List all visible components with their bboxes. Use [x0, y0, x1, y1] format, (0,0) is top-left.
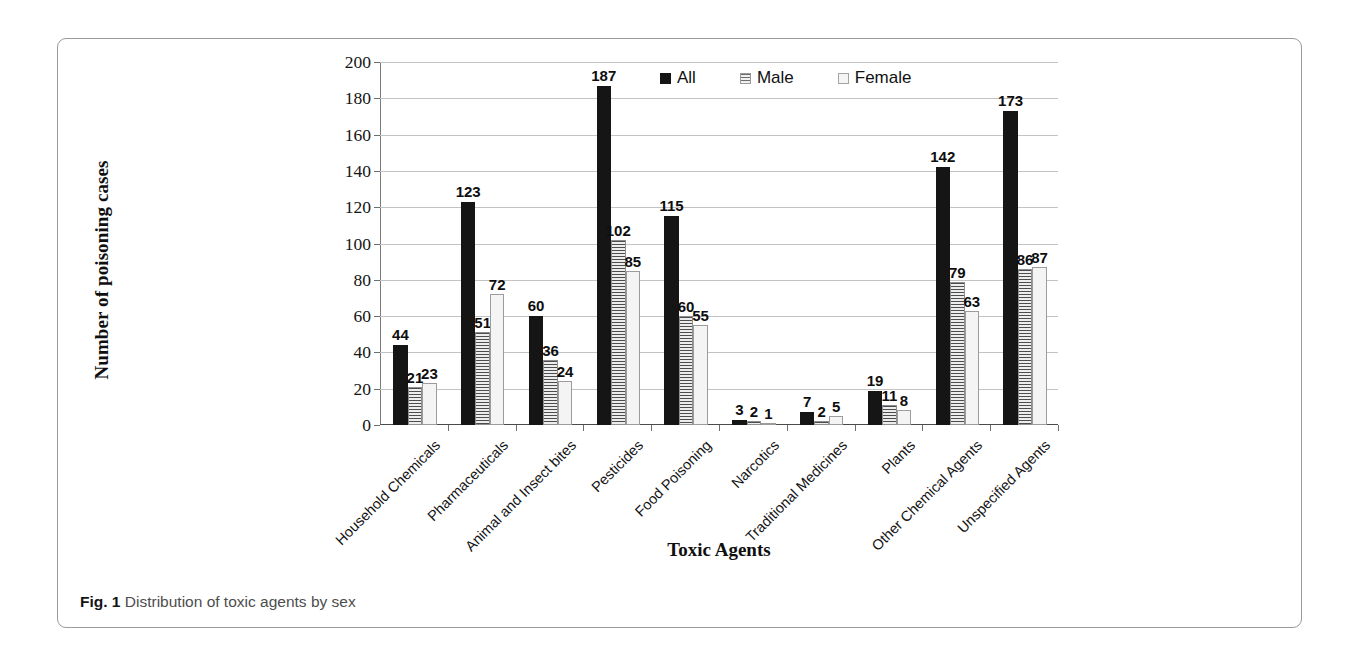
legend-label: Male	[757, 68, 794, 88]
x-category-label: Narcotics	[728, 437, 782, 491]
y-tick-label: 60	[354, 306, 372, 327]
y-tick-label: 80	[354, 269, 372, 290]
x-axis-title: Toxic Agents	[380, 539, 1058, 561]
y-tick-label: 120	[345, 197, 371, 218]
x-tick-mark	[855, 425, 856, 431]
legend-swatch-all-icon	[660, 73, 671, 84]
gridline	[380, 244, 1058, 245]
bar-male: 60	[679, 316, 694, 425]
bar-male: 21	[408, 387, 423, 425]
bar-value-label: 60	[528, 297, 545, 314]
y-tick-label: 180	[345, 88, 371, 109]
bar-male: 79	[950, 282, 965, 425]
y-tick-mark	[374, 98, 380, 99]
bar-female: 8	[897, 410, 912, 425]
y-tick-mark	[374, 425, 380, 426]
figure-caption: Fig. 1 Distribution of toxic agents by s…	[80, 593, 356, 611]
x-category-label: Household Chemicals	[332, 437, 443, 548]
bar-female: 87	[1032, 267, 1047, 425]
bar-value-label: 123	[456, 183, 481, 200]
legend-label: All	[677, 68, 696, 88]
y-tick-label: 140	[345, 160, 371, 181]
bar-female: 23	[422, 383, 437, 425]
bar-value-label: 1	[764, 405, 772, 422]
x-category-label: Animal and Insect bites	[461, 437, 578, 554]
bar-value-label: 2	[818, 403, 826, 420]
x-category-label: Pesticides	[589, 437, 647, 495]
bar-value-label: 115	[659, 197, 683, 214]
y-tick-mark	[374, 280, 380, 281]
bar-value-label: 72	[489, 276, 506, 293]
bar-value-label: 142	[930, 148, 955, 165]
bar-value-label: 8	[900, 392, 908, 409]
chart-legend: AllMaleFemale	[660, 68, 911, 88]
bar-female: 1	[761, 423, 776, 425]
legend-item-all: All	[660, 68, 696, 88]
bar-value-label: 51	[474, 314, 491, 331]
plot-area: 020406080100120140160180200 442123123517…	[380, 62, 1058, 425]
bar-male: 86	[1018, 269, 1033, 425]
x-tick-mark	[651, 425, 652, 431]
bar-male: 102	[611, 240, 626, 425]
bar-all: 123	[461, 202, 476, 425]
bar-value-label: 44	[392, 326, 409, 343]
x-category-label: Other Chemical Agents	[869, 437, 986, 554]
bar-male: 36	[543, 360, 558, 425]
bar-value-label: 63	[963, 293, 980, 310]
bar-all: 142	[936, 167, 951, 425]
y-tick-label: 200	[345, 52, 371, 73]
bar-female: 85	[626, 271, 641, 425]
bar-all: 3	[732, 420, 747, 425]
bar-all: 19	[868, 391, 883, 425]
legend-label: Female	[855, 68, 912, 88]
bar-male: 2	[747, 421, 762, 425]
figure-frame: Number of poisoning cases 02040608010012…	[57, 38, 1302, 628]
bar-value-label: 55	[692, 307, 709, 324]
bar-female: 55	[693, 325, 708, 425]
x-tick-mark	[516, 425, 517, 431]
bar-value-label: 87	[1031, 249, 1048, 266]
bar-female: 24	[558, 381, 573, 425]
bar-value-label: 11	[882, 387, 898, 404]
bar-value-label: 3	[735, 401, 743, 418]
y-tick-mark	[374, 207, 380, 208]
bar-female: 72	[490, 294, 505, 425]
legend-item-male: Male	[740, 68, 794, 88]
y-tick-label: 20	[354, 378, 372, 399]
gridline	[380, 62, 1058, 63]
bar-value-label: 36	[542, 342, 559, 359]
y-tick-mark	[374, 135, 380, 136]
x-tick-mark	[922, 425, 923, 431]
gridline	[380, 207, 1058, 208]
bar-all: 60	[529, 316, 544, 425]
legend-item-female: Female	[838, 68, 912, 88]
legend-swatch-male-icon	[740, 73, 751, 84]
bar-all: 7	[800, 412, 815, 425]
figure-caption-text: Distribution of toxic agents by sex	[125, 593, 356, 610]
legend-swatch-female-icon	[838, 73, 849, 84]
y-tick-mark	[374, 352, 380, 353]
bar-value-label: 24	[557, 363, 574, 380]
bar-male: 51	[475, 332, 490, 425]
bar-value-label: 79	[949, 264, 966, 281]
y-tick-label: 0	[362, 415, 371, 436]
x-tick-mark	[448, 425, 449, 431]
bar-value-label: 187	[591, 67, 616, 84]
bar-all: 187	[597, 86, 612, 425]
y-tick-mark	[374, 171, 380, 172]
bar-value-label: 2	[750, 403, 758, 420]
y-tick-mark	[374, 244, 380, 245]
bar-all: 173	[1003, 111, 1018, 425]
bar-male: 2	[814, 421, 829, 425]
y-tick-mark	[374, 316, 380, 317]
gridline	[380, 98, 1058, 99]
x-tick-mark	[583, 425, 584, 431]
bar-all: 115	[664, 216, 679, 425]
x-tick-mark	[719, 425, 720, 431]
bar-value-label: 173	[998, 92, 1023, 109]
figure-caption-label: Fig. 1	[80, 593, 120, 610]
bar-female: 63	[965, 311, 980, 425]
bar-all: 44	[393, 345, 408, 425]
y-axis-title: Number of poisoning cases	[91, 105, 113, 435]
chart-canvas: Number of poisoning cases 02040608010012…	[58, 39, 1303, 569]
